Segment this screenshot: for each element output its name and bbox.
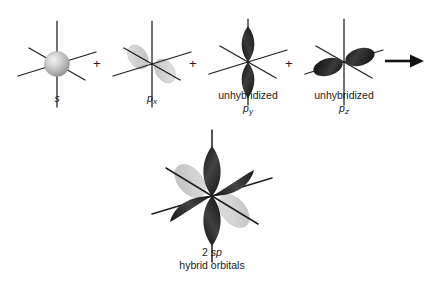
s-orbital-sphere	[45, 52, 70, 77]
sp-hybrid-orbitals-graphic	[142, 126, 282, 266]
py-lobes	[242, 26, 255, 98]
px-orbital-label: px	[102, 92, 202, 108]
s-orbital-label: s	[7, 92, 107, 105]
pz-orbital-label: unhybridized pz	[294, 89, 394, 118]
plus-operator-3: +	[285, 57, 293, 70]
py-orbital-label: unhybridized py	[198, 89, 298, 118]
right-arrow-icon	[384, 52, 426, 70]
plus-operator-2: +	[189, 57, 197, 70]
orbital-hybridization-figure: s +	[0, 0, 433, 294]
sp-hybrid-orbitals-label: 2 sp hybrid orbitals	[142, 246, 282, 272]
plus-operator-1: +	[93, 57, 101, 70]
hybrid-count-prefix: 2	[202, 246, 211, 258]
hybrid-sp-symbol: sp	[211, 246, 222, 258]
hybrid-orbitals-text: hybrid orbitals	[179, 259, 244, 271]
hybrid-dark-lobes	[170, 146, 254, 246]
